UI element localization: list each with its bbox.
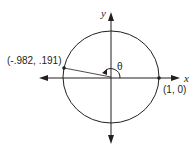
x-axis-left-arrow-icon (39, 75, 48, 81)
y-axis-label: y (100, 7, 106, 19)
initial-point-label: (1, 0) (163, 84, 186, 95)
y-axis-down-arrow-icon (108, 135, 114, 144)
terminal-point-marker (62, 66, 66, 70)
terminal-point-label: (-.982, .191) (7, 55, 61, 66)
angle-arc-arrow-icon (102, 69, 107, 75)
angle-label: θ (117, 61, 123, 72)
y-axis-up-arrow-icon (108, 12, 114, 21)
unit-circle-diagram: y x θ (-.982, .191) (1, 0) (0, 0, 195, 151)
x-axis-right-arrow-icon (171, 75, 180, 81)
initial-point-marker (157, 76, 161, 80)
x-axis-label: x (183, 72, 189, 84)
